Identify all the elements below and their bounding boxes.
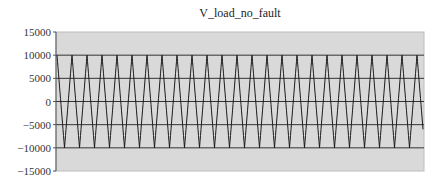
y-tick-label: −10000 <box>17 142 51 154</box>
y-tick-label: 15000 <box>24 26 52 38</box>
y-axis-ticks: 150001000050000−5000−10000−15000 <box>17 26 56 177</box>
y-tick-label: 0 <box>46 96 52 108</box>
y-tick-label: −5000 <box>23 119 52 131</box>
chart: V_load_no_fault 150001000050000−5000−100… <box>0 0 444 188</box>
chart-title: V_load_no_fault <box>199 6 281 20</box>
y-tick-label: −15000 <box>17 165 51 177</box>
y-tick-label: 10000 <box>24 49 52 61</box>
y-tick-label: 5000 <box>29 72 52 84</box>
